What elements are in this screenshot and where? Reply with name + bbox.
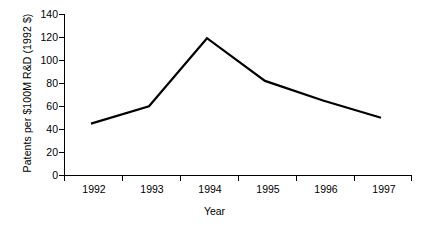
data-series-line [91,38,381,123]
chart-figure: Patents per $100M R&D (1992 $) 140 120 1… [0,0,429,230]
x-axis-label: Year [0,205,429,217]
y-axis [59,14,65,176]
x-axis [64,176,412,182]
plot-area [0,0,429,230]
